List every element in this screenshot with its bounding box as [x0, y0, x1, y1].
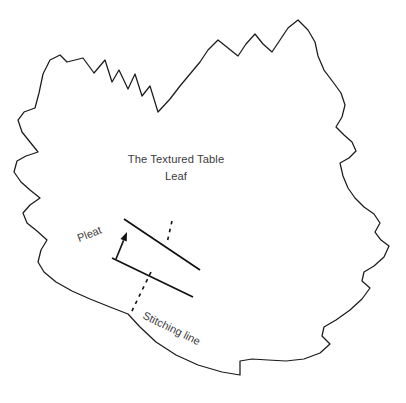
- page-title-line-2: Leaf: [165, 170, 188, 182]
- page-title-line-1: The Textured Table: [128, 153, 225, 165]
- leaf-outline-shape: [14, 20, 389, 375]
- leaf-pattern-drawing: The Textured Table Leaf Pleat Stitching …: [0, 0, 406, 403]
- pattern-sheet: The Textured Table Leaf Pleat Stitching …: [0, 0, 406, 403]
